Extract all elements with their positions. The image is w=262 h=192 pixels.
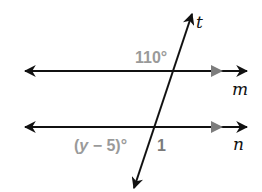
label-t: t	[196, 12, 203, 32]
parallel-marker-m	[211, 65, 223, 77]
line-t	[134, 14, 192, 188]
angle-y-minus-5-label: (y − 5)°	[74, 137, 127, 154]
line-m	[25, 65, 247, 77]
label-n: n	[233, 134, 244, 154]
parallel-marker-n	[211, 121, 223, 133]
parallel-lines-diagram: t m n 110° (y − 5)° 1	[0, 0, 262, 192]
angle-110-label: 110°	[135, 49, 167, 66]
angle-1-label: 1	[157, 137, 166, 154]
angle-expr-rest: − 5)°	[88, 137, 127, 154]
label-m: m	[232, 79, 248, 99]
line-n	[25, 121, 247, 133]
